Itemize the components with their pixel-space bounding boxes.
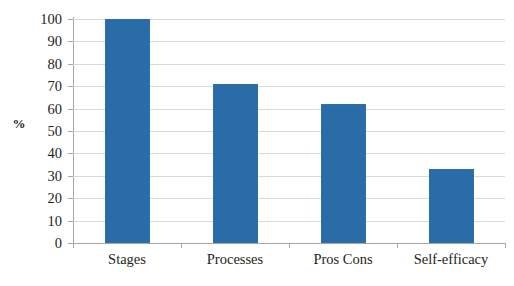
- y-axis-tick-label: 100: [22, 12, 62, 27]
- y-axis-tick-label: 60: [22, 102, 62, 117]
- x-axis-tick: [289, 243, 290, 248]
- x-axis-category-label: Processes: [181, 252, 289, 267]
- x-axis-category-label: Self-efficacy: [397, 252, 505, 267]
- y-axis-tick-label: 80: [22, 57, 62, 72]
- y-axis-title: %: [8, 116, 30, 132]
- x-axis-tick: [73, 243, 74, 248]
- x-axis-tick: [505, 243, 506, 248]
- bar: [321, 104, 366, 243]
- bar: [429, 169, 474, 243]
- bar: [105, 19, 150, 243]
- x-axis-category-label: Stages: [73, 252, 181, 267]
- x-axis-category-label: Pros Cons: [289, 252, 397, 267]
- x-axis-tick: [181, 243, 182, 248]
- y-axis-tick-label: 70: [22, 79, 62, 94]
- cropped-title-strip: [0, 0, 514, 5]
- bar-chart: % 0102030405060708090100 StagesProcesses…: [0, 0, 514, 286]
- y-axis-tick-label: 40: [22, 146, 62, 161]
- bar: [213, 84, 258, 243]
- y-axis-tick-label: 20: [22, 191, 62, 206]
- y-axis-tick-label: 90: [22, 34, 62, 49]
- y-axis-tick-label: 10: [22, 214, 62, 229]
- y-axis-tick-label: 0: [22, 236, 62, 251]
- plot-area: [73, 19, 505, 243]
- y-axis-tick-label: 30: [22, 169, 62, 184]
- x-axis-tick: [397, 243, 398, 248]
